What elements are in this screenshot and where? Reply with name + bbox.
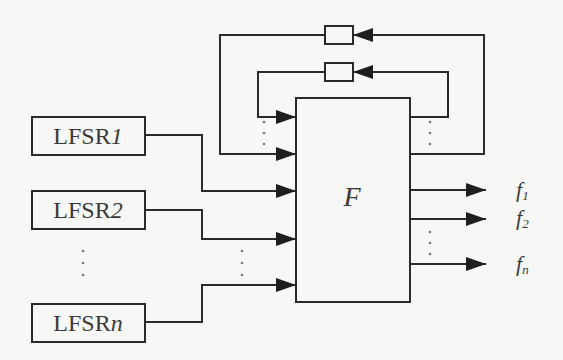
lfsr-label-n: LFSRn: [53, 310, 122, 336]
delay-box-inner: [325, 63, 353, 81]
output-label-n: fn: [516, 251, 529, 277]
lfsr-label-2: LFSR2: [53, 197, 122, 223]
delay-box-outer: [325, 26, 353, 44]
lfsr2-connector: [145, 210, 296, 239]
function-label: F: [342, 181, 361, 212]
output-label-1: f1: [516, 177, 529, 203]
lfsr-label-1: LFSR1: [53, 123, 122, 149]
output-label-2: f2: [516, 205, 529, 231]
lfsr-combiner-diagram: LFSR1 LFSR2 LFSRn F f1 f2 fn: [0, 0, 563, 360]
lfsrn-connector: [145, 285, 296, 322]
